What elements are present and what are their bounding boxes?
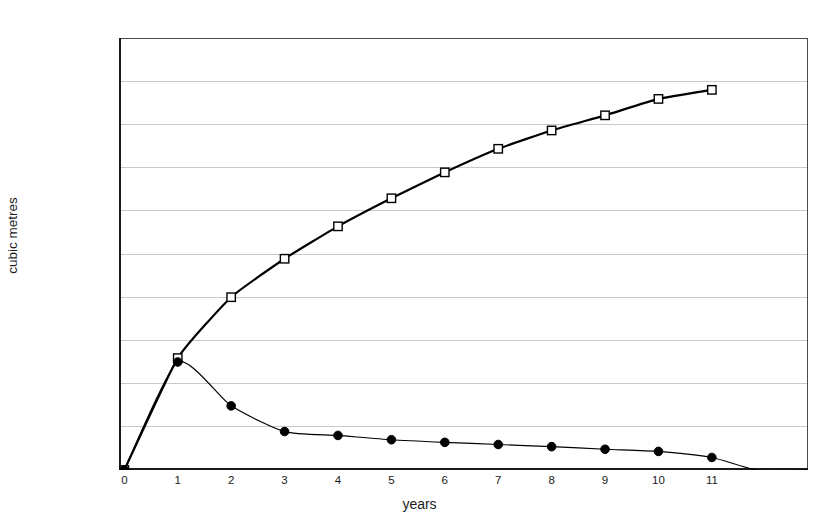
plot-svg (119, 38, 808, 470)
data-marker-square (547, 126, 555, 134)
data-marker-square (601, 111, 609, 119)
series-cumulative (120, 86, 716, 470)
series-line-cumulative (124, 90, 712, 470)
series-annual (120, 358, 808, 470)
data-marker-square (494, 145, 502, 153)
data-marker-circle (441, 438, 450, 447)
data-marker-circle (227, 402, 236, 411)
data-marker-square (708, 86, 716, 94)
x-tick-label: 2 (228, 474, 234, 487)
x-tick-label: 9 (602, 474, 608, 487)
x-tick-label: 6 (442, 474, 448, 487)
data-marker-circle (173, 358, 182, 367)
x-axis-title: years (0, 496, 839, 512)
data-marker-circle (387, 435, 396, 444)
x-tick-label: 0 (121, 474, 127, 487)
x-axis-tick-labels: 01234567891011 (0, 474, 839, 494)
data-marker-circle (280, 427, 289, 436)
chart-container: cubic metres 0.00200,000.00400,000.00600… (0, 0, 839, 532)
data-marker-circle (120, 466, 129, 470)
data-marker-circle (547, 442, 556, 451)
data-marker-circle (601, 445, 610, 454)
plot-area (119, 38, 808, 470)
x-tick-label: 8 (548, 474, 554, 487)
x-tick-label: 10 (652, 474, 665, 487)
data-marker-square (654, 95, 662, 103)
gridlines (119, 38, 808, 427)
x-tick-label: 4 (335, 474, 341, 487)
data-marker-square (334, 222, 342, 230)
data-marker-square (227, 293, 235, 301)
x-tick-label: 7 (495, 474, 501, 487)
data-marker-circle (494, 440, 503, 449)
data-marker-circle (708, 453, 717, 462)
data-marker-circle (334, 431, 343, 440)
data-marker-circle (654, 447, 663, 456)
x-tick-label: 5 (388, 474, 394, 487)
x-tick-label: 11 (706, 474, 718, 487)
x-tick-label: 1 (175, 474, 181, 487)
data-marker-square (387, 194, 395, 202)
x-tick-label: 3 (281, 474, 287, 487)
y-axis-tick-labels: 0.00200,000.00400,000.00600,000.00800,00… (0, 0, 119, 510)
data-marker-square (280, 255, 288, 263)
data-marker-square (441, 168, 449, 176)
series-line-annual (124, 361, 808, 470)
